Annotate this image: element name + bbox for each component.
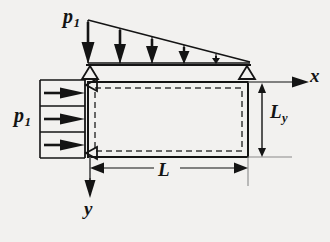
load-arrow-2 [114,30,126,64]
height-dimension-arrow-down [258,148,266,157]
x-axis-group [248,77,309,88]
y-axis-arrowhead [85,180,96,198]
engineering-figure: p1 p1 x y Ly L [0,0,330,242]
plate-outline [88,82,248,157]
uniform-load-group [40,80,85,158]
height-dimension-label: Ly [270,102,288,125]
length-dimension-arrow-left [90,163,104,174]
triangular-load-group [82,20,251,64]
triangular-load-slope [88,20,250,62]
length-dimension-arrow-right [234,163,248,174]
p1-left-load-label: p1 [14,105,31,128]
height-dimension-arrow-up [258,83,266,93]
uniform-load-arrow-1 [44,88,85,99]
load-arrow-4 [179,47,190,64]
uniform-load-arrow-3 [44,140,85,151]
pin-support-left [82,66,98,79]
length-dimension-label: L [158,160,170,179]
x-axis-arrowhead [292,77,309,88]
p1-top-load-label: p1 [63,6,80,29]
plate-inner-dashed-outline [95,88,242,151]
y-axis-label: y [84,199,92,218]
load-arrow-1 [82,22,95,64]
uniform-load-arrow-2 [44,114,85,125]
x-axis-label: x [310,66,320,85]
pin-support-right [239,66,255,79]
load-arrow-3 [146,39,158,64]
